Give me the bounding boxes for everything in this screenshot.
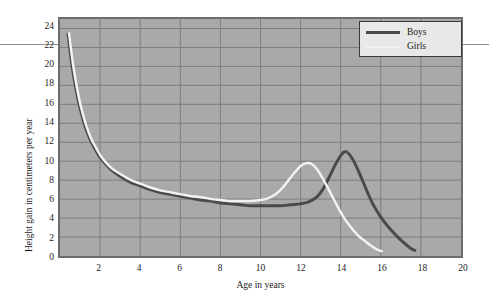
x-tick-label: 6 [168, 263, 192, 273]
x-tick-label: 18 [411, 263, 435, 273]
y-tick-label: 24 [38, 21, 54, 31]
x-tick-label: 10 [249, 263, 273, 273]
y-tick-label: 2 [38, 233, 54, 243]
y-tick-label: 22 [38, 40, 54, 50]
y-tick-label: 0 [38, 252, 54, 262]
y-tick-label: 14 [38, 117, 54, 127]
y-tick-label: 4 [38, 213, 54, 223]
x-tick-label: 20 [451, 263, 475, 273]
legend-item-girls: Girls [366, 40, 455, 53]
series-line-girls [69, 33, 382, 251]
x-tick-label: 2 [87, 263, 111, 273]
y-tick-label: 20 [38, 59, 54, 69]
x-tick-label: 12 [289, 263, 313, 273]
legend-label-girls: Girls [407, 41, 426, 52]
y-tick-label: 6 [38, 194, 54, 204]
chart-legend: Boys Girls [359, 21, 462, 57]
x-tick-label: 14 [330, 263, 354, 273]
page-rule-right [463, 44, 489, 45]
y-tick-label: 10 [38, 156, 54, 166]
x-tick-label: 4 [127, 263, 151, 273]
legend-item-boys: Boys [366, 26, 455, 39]
y-tick-label: 8 [38, 175, 54, 185]
x-tick-label: 16 [370, 263, 394, 273]
legend-label-boys: Boys [407, 27, 427, 38]
legend-swatch-boys-icon [366, 31, 400, 34]
y-tick-label: 16 [38, 98, 54, 108]
x-axis-title: Age in years [201, 280, 321, 290]
x-tick-label: 8 [208, 263, 232, 273]
growth-velocity-chart: Height gain in centimeters per year Age … [0, 0, 489, 300]
y-tick-label: 12 [38, 136, 54, 146]
y-tick-label: 18 [38, 78, 54, 88]
series-line-boys [68, 34, 415, 250]
legend-swatch-girls-icon [366, 46, 400, 48]
y-axis-title: Height gain in centimeters per year [24, 118, 34, 252]
